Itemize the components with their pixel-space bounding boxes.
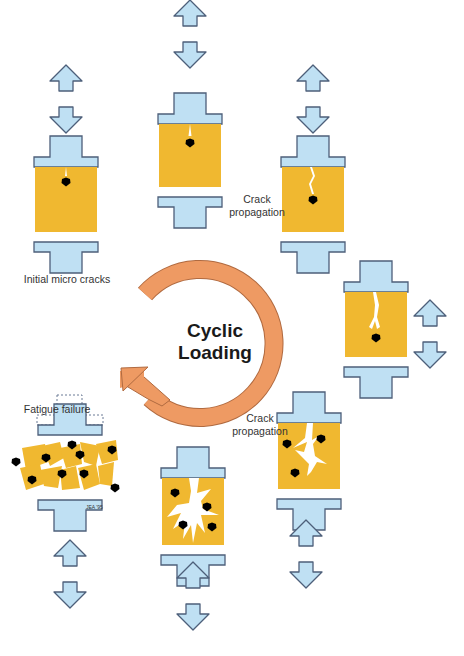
label-crack-propagation-1: Crack propagation	[222, 193, 292, 219]
label-line: Crack	[222, 193, 292, 206]
stage-failure	[12, 395, 120, 608]
upper-grip	[34, 136, 98, 167]
upper-grip	[158, 93, 222, 124]
artist-credit: JEA '95	[86, 504, 103, 510]
lower-grip	[281, 242, 345, 273]
label-line: propagation	[225, 425, 295, 438]
label-crack-propagation-2: Crack propagation	[225, 412, 295, 438]
load-arrows-icon	[54, 540, 86, 608]
center-title: Cyclic Loading	[150, 320, 280, 364]
stage-initial	[34, 65, 98, 273]
marker	[12, 458, 21, 467]
fractured-specimen	[20, 440, 118, 490]
load-arrows-icon	[50, 65, 82, 133]
stage-6	[161, 447, 225, 630]
upper-grip	[161, 447, 225, 478]
marker	[111, 484, 120, 493]
center-title-line1: Cyclic	[150, 320, 280, 342]
label-line: propagation	[222, 206, 292, 219]
specimen	[35, 167, 97, 232]
label-fatigue-failure: Fatigue failure	[12, 403, 102, 416]
label-line: Crack	[225, 412, 295, 425]
stage-2	[158, 0, 222, 228]
lower-grip	[158, 197, 222, 228]
lower-grip	[34, 242, 98, 273]
upper-grip	[281, 136, 345, 167]
label-initial-micro-cracks: Initial micro cracks	[12, 273, 122, 286]
center-title-line2: Loading	[150, 342, 280, 364]
stage-3	[281, 65, 345, 273]
upper-grip	[344, 261, 408, 292]
lower-grip	[344, 367, 408, 398]
load-arrows-icon	[297, 65, 329, 133]
load-arrows-icon	[174, 0, 206, 68]
stage-4	[344, 261, 446, 398]
load-arrows-icon	[414, 300, 446, 368]
